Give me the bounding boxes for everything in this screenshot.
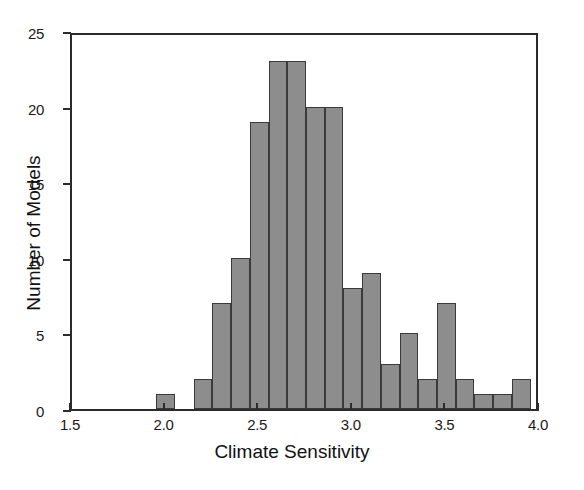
histogram-bar [212, 303, 231, 409]
histogram-bar [512, 379, 531, 409]
y-axis-title: Number of Models [23, 113, 45, 353]
histogram-bar [343, 288, 362, 409]
histogram-bar [325, 107, 344, 409]
histogram-bar [474, 394, 493, 409]
x-tick-label: 4.0 [528, 416, 548, 433]
histogram-bar [493, 394, 512, 409]
histogram-bar [231, 258, 250, 409]
x-tick-mark [69, 403, 71, 411]
histogram-bar [269, 61, 288, 409]
histogram-bar [287, 61, 306, 409]
x-tick-mark [163, 403, 165, 411]
x-axis-title: Climate Sensitivity [0, 441, 584, 463]
x-tick-mark [537, 403, 539, 411]
histogram-bar [194, 379, 213, 409]
histogram-bar [306, 107, 325, 409]
histogram-bar [250, 122, 269, 409]
histogram-bar [400, 333, 419, 409]
histogram-bar [437, 303, 456, 409]
histogram-figure: 0510152025 1.52.02.53.03.54.0 Climate Se… [0, 0, 584, 490]
x-tick-mark [256, 403, 258, 411]
histogram-bar [156, 394, 175, 409]
x-tick-label: 1.5 [60, 416, 80, 433]
y-tick-mark [63, 334, 71, 336]
x-tick-mark [443, 403, 445, 411]
bars-layer [72, 35, 536, 409]
histogram-bar [362, 273, 381, 409]
histogram-bar [456, 379, 475, 409]
y-tick-label: 25 [28, 25, 44, 42]
histogram-bar [381, 364, 400, 409]
x-tick-label: 3.0 [341, 416, 361, 433]
plot-area [70, 33, 538, 411]
x-tick-label: 2.0 [154, 416, 174, 433]
histogram-bar [418, 379, 437, 409]
y-tick-mark [63, 183, 71, 185]
x-tick-label: 2.5 [247, 416, 267, 433]
y-tick-mark [63, 32, 71, 34]
x-tick-mark [350, 403, 352, 411]
y-tick-mark [63, 259, 71, 261]
y-tick-mark [63, 108, 71, 110]
x-tick-label: 3.5 [434, 416, 454, 433]
